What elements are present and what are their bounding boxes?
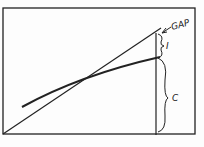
i-label: I (166, 41, 169, 51)
diagonal-line (3, 28, 161, 134)
brace-i (158, 34, 164, 58)
diagram-svg: GAP I C (0, 0, 204, 147)
c-label: C (172, 93, 179, 103)
brace-c (158, 58, 168, 132)
diagram-canvas: GAP I C (0, 0, 204, 147)
gap-label: GAP (170, 17, 191, 32)
curve-line (22, 57, 160, 107)
